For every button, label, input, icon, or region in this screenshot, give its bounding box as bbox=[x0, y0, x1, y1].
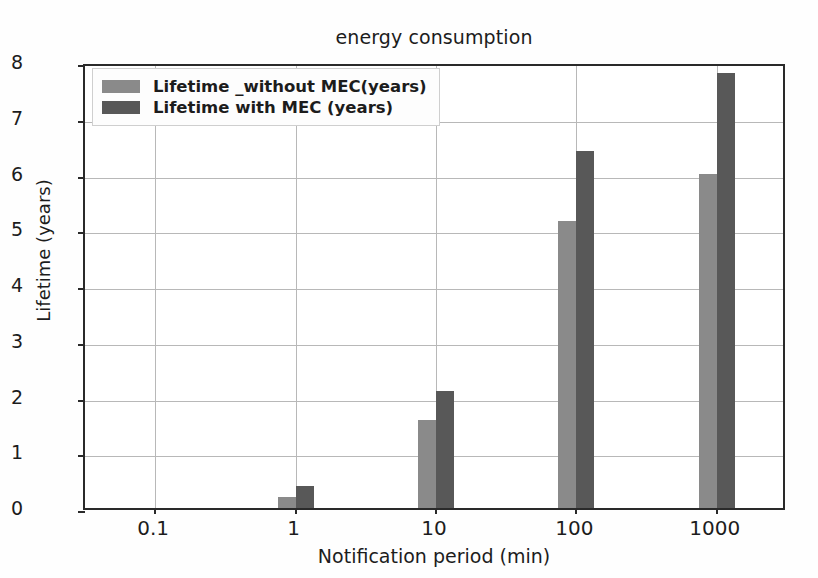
chart-title: energy consumption bbox=[83, 26, 785, 48]
bar bbox=[278, 497, 296, 508]
y-tick-mark bbox=[78, 400, 85, 402]
y-tick-label: 4 bbox=[0, 274, 23, 296]
legend-label: Lifetime with MEC (years) bbox=[153, 98, 393, 117]
bar bbox=[418, 420, 436, 508]
legend-swatch-icon bbox=[102, 101, 140, 114]
y-tick-label: 0 bbox=[0, 497, 23, 519]
x-tick-mark bbox=[435, 508, 437, 514]
y-tick-label: 2 bbox=[0, 386, 23, 408]
bar bbox=[296, 486, 314, 508]
bar bbox=[699, 174, 717, 509]
legend-swatch-icon bbox=[102, 80, 140, 93]
x-tick-label: 1 bbox=[234, 516, 354, 540]
y-axis-label: Lifetime (years) bbox=[33, 101, 54, 401]
x-tick-label: 1000 bbox=[655, 516, 775, 540]
y-tick-mark bbox=[78, 65, 85, 67]
chart-legend[interactable]: Lifetime _without MEC(years) Lifetime wi… bbox=[92, 68, 440, 126]
x-tick-label: 10 bbox=[374, 516, 494, 540]
legend-item: Lifetime with MEC (years) bbox=[102, 97, 427, 117]
x-axis-label: Notification period (min) bbox=[83, 545, 785, 567]
y-tick-label: 1 bbox=[0, 441, 23, 463]
plot-area: Lifetime _without MEC(years) Lifetime wi… bbox=[83, 64, 785, 510]
y-tick-mark bbox=[78, 232, 85, 234]
gridline-horizontal bbox=[85, 289, 783, 290]
y-tick-label: 8 bbox=[0, 51, 23, 73]
y-tick-label: 7 bbox=[0, 107, 23, 129]
gridline-horizontal bbox=[85, 401, 783, 402]
x-tick-mark bbox=[716, 508, 718, 514]
x-tick-mark bbox=[154, 508, 156, 514]
bar bbox=[436, 391, 454, 508]
gridline-horizontal bbox=[85, 345, 783, 346]
x-tick-mark bbox=[575, 508, 577, 514]
y-tick-label: 6 bbox=[0, 163, 23, 185]
bar bbox=[717, 73, 735, 508]
gridline-horizontal bbox=[85, 178, 783, 179]
y-tick-label: 5 bbox=[0, 218, 23, 240]
gridline-vertical bbox=[296, 66, 297, 508]
x-tick-label: 0.1 bbox=[93, 516, 213, 540]
bar bbox=[576, 151, 594, 508]
y-tick-mark bbox=[78, 177, 85, 179]
y-tick-mark bbox=[78, 121, 85, 123]
legend-label: Lifetime _without MEC(years) bbox=[153, 77, 427, 96]
x-tick-mark bbox=[295, 508, 297, 514]
y-tick-label: 3 bbox=[0, 330, 23, 352]
bar bbox=[558, 221, 576, 508]
figure-canvas: energy consumption Lifetime _without MEC… bbox=[0, 0, 818, 578]
y-tick-mark bbox=[78, 455, 85, 457]
gridline-vertical bbox=[155, 66, 156, 508]
y-tick-mark bbox=[78, 344, 85, 346]
gridline-horizontal bbox=[85, 233, 783, 234]
x-tick-label: 100 bbox=[514, 516, 634, 540]
plot-inner: Lifetime _without MEC(years) Lifetime wi… bbox=[85, 66, 783, 508]
y-tick-mark bbox=[78, 288, 85, 290]
y-tick-mark bbox=[78, 511, 85, 513]
legend-item: Lifetime _without MEC(years) bbox=[102, 76, 427, 96]
